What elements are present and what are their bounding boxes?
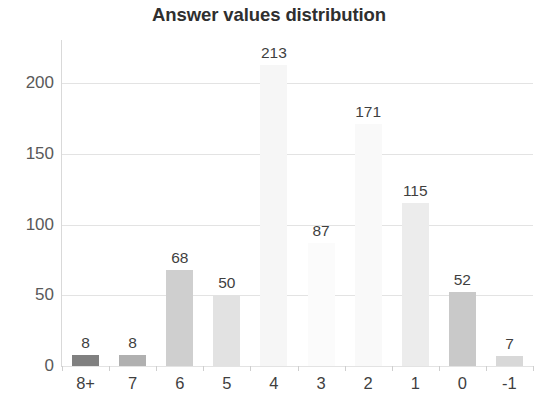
x-axis-tick [486, 366, 487, 371]
bar-value-label: 213 [250, 44, 298, 62]
y-axis-line [61, 40, 62, 367]
x-axis-tick [439, 366, 440, 371]
bar-value-label: 115 [391, 182, 439, 200]
y-axis-tick-label: 0 [4, 356, 54, 376]
bar-value-label: 50 [203, 274, 251, 292]
x-axis-tick-label: 3 [297, 374, 345, 393]
x-axis-tick [62, 366, 63, 371]
bar-value-label: 52 [438, 271, 486, 289]
x-axis-tick-label: 6 [156, 374, 204, 393]
bar-value-label: 68 [156, 249, 204, 267]
bar-value-label: 8 [62, 334, 110, 352]
x-axis-tick [203, 366, 204, 371]
y-axis-tick-label: 150 [4, 144, 54, 164]
bar-value-label: 8 [109, 334, 157, 352]
x-axis-tick-label: -1 [485, 374, 533, 393]
bar [402, 203, 429, 366]
x-axis-tick [533, 366, 534, 371]
x-axis-tick-label: 7 [109, 374, 157, 393]
bar-value-label: 87 [297, 222, 345, 240]
bar-chart: Answer values distribution 050100150200 … [0, 0, 538, 407]
bar [213, 295, 240, 366]
y-axis-tick-label: 200 [4, 73, 54, 93]
x-axis-tick-label: 1 [391, 374, 439, 393]
bar [166, 270, 193, 366]
bar [260, 65, 287, 366]
x-axis-tick [345, 366, 346, 371]
bar-value-label: 171 [344, 103, 392, 121]
bar [119, 355, 146, 366]
x-axis-tick-label: 2 [344, 374, 392, 393]
bar [449, 292, 476, 366]
gridline [62, 154, 533, 155]
y-axis-tick-label: 50 [4, 285, 54, 305]
x-axis-tick-label: 4 [250, 374, 298, 393]
y-axis-tick-label: 100 [4, 215, 54, 235]
x-axis-tick [298, 366, 299, 371]
x-axis-tick-label: 0 [438, 374, 486, 393]
gridline [62, 83, 533, 84]
bar [355, 124, 382, 366]
bar [72, 355, 99, 366]
x-axis-tick-label: 8+ [62, 374, 110, 393]
x-axis-tick-label: 5 [203, 374, 251, 393]
bar [308, 243, 335, 366]
bar [496, 356, 523, 366]
x-axis-tick [250, 366, 251, 371]
x-axis-tick [109, 366, 110, 371]
x-axis-tick [156, 366, 157, 371]
bar-value-label: 7 [485, 335, 533, 353]
x-axis-tick [392, 366, 393, 371]
chart-title: Answer values distribution [0, 4, 538, 26]
